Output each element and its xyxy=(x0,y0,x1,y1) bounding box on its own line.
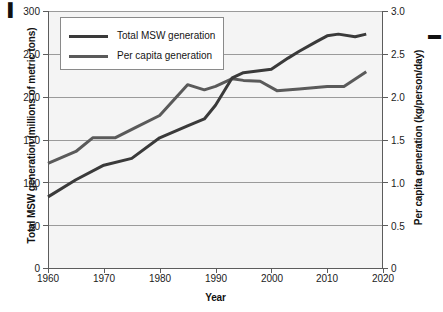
legend-item-total-msw: Total MSW generation xyxy=(69,28,215,44)
msw-generation-chart: Total MSW generation (millions of metric… xyxy=(0,0,443,312)
legend-swatch-total-msw xyxy=(69,35,108,38)
legend-label-per-capita: Per capita generation xyxy=(117,51,212,61)
legend-swatch-per-capita xyxy=(69,55,108,58)
right-margin-mark-icon: ▬ xyxy=(428,27,441,42)
left-margin-mark-icon: ▌ xyxy=(8,2,17,17)
legend-item-per-capita: Per capita generation xyxy=(69,48,212,64)
legend-label-total-msw: Total MSW generation xyxy=(117,31,215,41)
legend: Total MSW generation Per capita generati… xyxy=(60,17,224,70)
